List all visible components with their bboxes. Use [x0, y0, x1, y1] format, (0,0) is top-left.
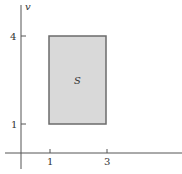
y-tick-label-1: 1: [11, 119, 17, 130]
diagram-canvas: v 1 3 4 1 S: [0, 0, 182, 174]
region-label: S: [74, 75, 81, 86]
x-tick-label-3: 3: [104, 156, 110, 167]
y-tick-label-4: 4: [10, 31, 16, 42]
x-tick-label-1: 1: [47, 156, 53, 167]
y-axis-label: v: [25, 1, 31, 12]
